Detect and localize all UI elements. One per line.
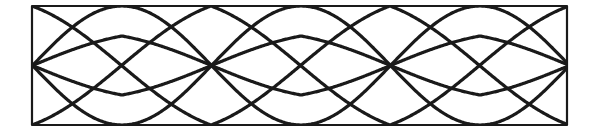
interlace-pattern-graphic	[0, 0, 593, 135]
